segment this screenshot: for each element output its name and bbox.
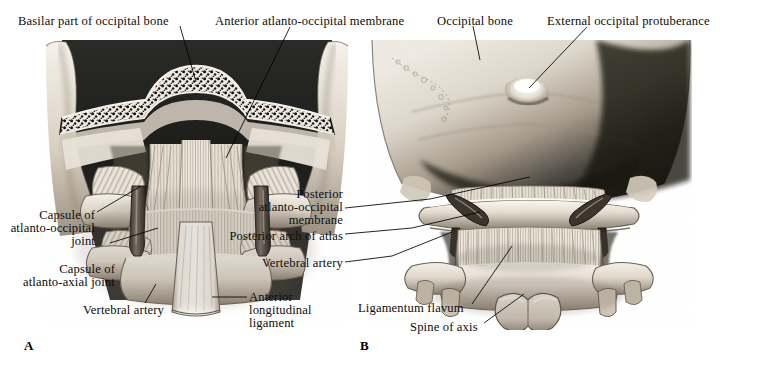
figure-canvas: Basilar part of occipital bone Anterior … xyxy=(0,0,758,374)
anatomical-illustration xyxy=(0,0,758,374)
label-anterior-longitudinal-ligament: Anterior longitudinal ligament xyxy=(249,291,312,331)
label-vertebral-artery-a: Vertebral artery xyxy=(83,304,164,317)
label-posterior-atlanto-occipital-membrane: Posterior atlanto-occipital membrane xyxy=(259,188,343,228)
label-spine-of-axis: Spine of axis xyxy=(410,321,478,334)
panel-letter-b: B xyxy=(360,338,369,354)
label-vertebral-artery-b: Vertebral artery xyxy=(262,257,343,270)
label-occipital-bone: Occipital bone xyxy=(437,15,513,28)
label-basilar-part-of-occipital-bone: Basilar part of occipital bone xyxy=(18,15,169,28)
label-external-occipital-protuberance: External occipital protuberance xyxy=(547,15,710,28)
label-capsule-of-atlanto-axial-joint: Capsule of atlanto-axial joint xyxy=(23,263,115,289)
panel-letter-a: A xyxy=(24,338,33,354)
label-ligamentum-flavum: Ligamentum flavum xyxy=(358,302,464,315)
label-capsule-of-atlanto-occipital-joint: Capsule of atlanto-occipital joint xyxy=(11,209,95,249)
label-anterior-atlanto-occipital-membrane: Anterior atlanto-occipital membrane xyxy=(215,15,404,28)
panel-b-artwork xyxy=(366,40,692,332)
label-posterior-arch-of-atlas: Posterior arch of atlas xyxy=(229,230,343,243)
